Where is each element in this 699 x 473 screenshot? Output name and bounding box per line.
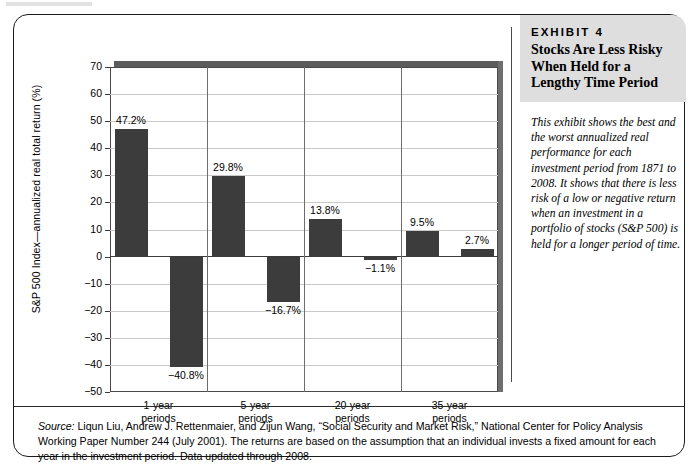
category-divider [304,67,305,392]
y-axis-tick-label: 70 [56,60,102,72]
y-axis-tick-label: −20 [56,304,102,316]
bar-value-label: 13.8% [293,204,357,216]
y-axis-tick-mark [105,175,110,176]
bar [115,129,148,257]
y-axis-tick-label: −40 [56,358,102,370]
panel-divider [511,27,512,382]
y-axis-tick-label: −10 [56,277,102,289]
exhibit-number-label: EXHIBIT 4 [531,26,674,38]
y-axis-tick-mark [105,284,110,285]
category-line-1: 20-year [335,399,371,411]
y-axis-tick-label: 50 [56,114,102,126]
y-axis-tick-label: 30 [56,168,102,180]
exhibit-side-panel: EXHIBIT 4 Stocks Are Less Risky When Hel… [511,15,686,398]
bar-value-label: 9.5% [390,216,454,228]
category-line-1: 1-year [144,399,174,411]
plot-frame-right-edge [498,61,503,392]
y-axis-tick-label: −50 [56,385,102,397]
y-axis-tick-mark [105,148,110,149]
bar [364,257,397,260]
y-axis-tick-label: 0 [56,250,102,262]
exhibit-description: This exhibit shows the best and the wors… [531,115,683,252]
category-line-1: 5-year [241,399,271,411]
bar [461,249,494,256]
y-axis-tick-mark [105,202,110,203]
bar [406,231,439,257]
bar [267,257,300,302]
category-line-1: 35-year [432,399,468,411]
y-axis-tick-mark [105,311,110,312]
bar [309,219,342,256]
y-axis-tick-label: 40 [56,141,102,153]
y-axis-tick-mark [105,392,110,393]
bar-value-label: 47.2% [99,114,163,126]
exhibit-header: EXHIBIT 4 Stocks Are Less Risky When Hel… [520,15,686,102]
bar-value-label: −40.8% [154,369,218,381]
exhibit-title: Stocks Are Less Risky When Held for a Le… [531,42,674,92]
source-divider [14,406,684,407]
y-axis-tick-mark [105,257,110,258]
y-axis-tick-mark [105,338,110,339]
source-text: Liqun Liu, Andrew J. Rettenmaier, and Zi… [38,420,656,462]
bar-value-label: 29.8% [196,161,260,173]
exhibit-upper-area: S&P 500 Index—annualized real total retu… [14,15,684,398]
y-axis-tick-mark [105,365,110,366]
bar-value-label: −1.1% [348,262,412,274]
page-edge-artifact [6,2,92,6]
source-lead-word: Source: [38,420,75,432]
y-axis-tick-label: −30 [56,331,102,343]
bar [212,176,245,257]
exhibit-card: S&P 500 Index—annualized real total retu… [13,14,685,457]
bar-chart: S&P 500 Index—annualized real total retu… [48,29,498,399]
y-axis-tick-label: 20 [56,195,102,207]
category-divider [401,67,402,392]
bar-value-label: 2.7% [445,234,509,246]
y-axis-tick-label: 60 [56,87,102,99]
y-axis-tick-mark [105,67,110,68]
category-divider [207,67,208,392]
y-axis-title: S&P 500 Index—annualized real total retu… [30,29,46,369]
y-axis-tick-mark [105,94,110,95]
bar [170,257,203,368]
bar-value-label: −16.7% [251,304,315,316]
y-axis-tick-label: 10 [56,223,102,235]
source-note: Source: Liqun Liu, Andrew J. Rettenmaier… [38,419,663,464]
y-axis-tick-mark [105,230,110,231]
